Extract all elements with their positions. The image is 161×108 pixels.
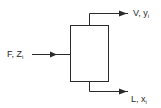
feed-label: F, Zi — [7, 49, 23, 62]
vapor-label: V, yi — [133, 8, 149, 21]
liquid-label: L, xi — [131, 94, 147, 107]
feed-arrow-icon — [50, 52, 57, 58]
vapor-arrow-icon — [119, 11, 127, 17]
flash-drum-vessel — [71, 26, 109, 82]
liquid-arrow-icon — [119, 89, 127, 95]
